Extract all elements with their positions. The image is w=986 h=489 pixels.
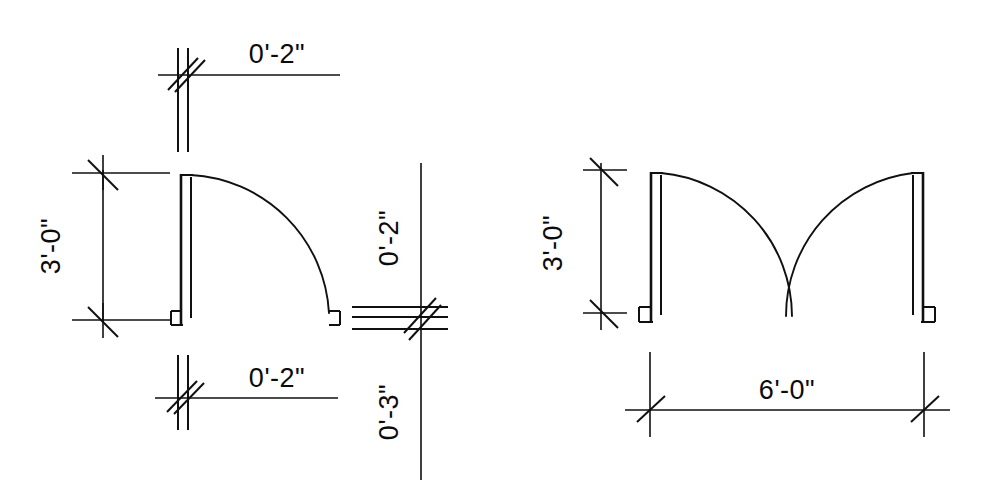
single-door-geometry <box>171 174 340 325</box>
dimension-single-bottom: 0'-2" <box>155 355 338 430</box>
dimension-double-bottom: 6'-0" <box>625 352 950 437</box>
double-door-figure: 3'-0" <box>538 158 950 437</box>
dimension-label-single-right-lower: 0'-3" <box>374 384 404 440</box>
dimension-tick-top-a <box>168 58 198 90</box>
architectural-drawing: 0'-2" 3'-0" <box>0 0 986 489</box>
dimension-label-single-top: 0'-2" <box>249 39 305 69</box>
dimension-tick-double-bottom-right <box>911 396 939 422</box>
dimension-label-single-right-upper: 0'-2" <box>374 210 404 266</box>
dimension-tick-bottom-a <box>167 381 197 412</box>
dimension-label-single-left: 3'-0" <box>36 218 66 274</box>
dimension-tick-double-bottom-left <box>637 396 665 422</box>
dimension-label-single-bottom: 0'-2" <box>249 363 305 393</box>
dimension-tick-top-b <box>175 60 205 92</box>
dimension-single-left: 3'-0" <box>36 155 170 338</box>
drawing-canvas-root: 0'-2" 3'-0" <box>0 0 986 489</box>
single-door-figure: 0'-2" 3'-0" <box>36 39 448 480</box>
dimension-single-right: 0'-2" 0'-3" <box>352 163 448 480</box>
dimension-tick-double-left-lower <box>590 300 618 328</box>
dimension-single-top: 0'-2" <box>158 39 340 152</box>
door-swing-arc <box>191 175 329 313</box>
dimension-label-double-bottom: 6'-0" <box>759 375 815 405</box>
double-door-geometry <box>639 172 935 322</box>
dimension-label-double-left: 3'-0" <box>538 215 568 271</box>
dimension-tick-double-left-upper <box>590 158 618 186</box>
double-left-swing-arc <box>661 173 792 316</box>
double-right-swing-arc <box>786 173 913 316</box>
dimension-double-left: 3'-0" <box>538 158 627 330</box>
